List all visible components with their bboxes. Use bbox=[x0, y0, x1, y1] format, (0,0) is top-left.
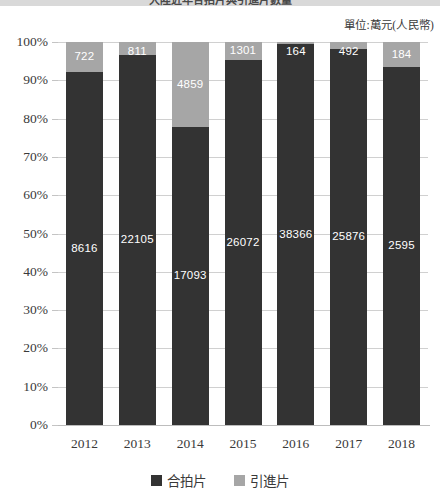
bar-group[interactable]: 170934859 bbox=[172, 42, 209, 425]
bar-value-label: 25876 bbox=[332, 231, 365, 243]
bar-group[interactable]: 25876492 bbox=[330, 42, 367, 425]
legend-swatch-icon bbox=[151, 475, 162, 486]
bar-segment-coproduction[interactable]: 8616 bbox=[66, 72, 103, 426]
bar-group[interactable]: 38366164 bbox=[277, 42, 314, 425]
y-tick-label: 80% bbox=[23, 111, 48, 127]
x-tick-label: 2013 bbox=[111, 436, 164, 452]
bar-value-label: 26072 bbox=[227, 237, 260, 249]
bar-segment-imported[interactable]: 1301 bbox=[225, 42, 262, 60]
x-axis-baseline bbox=[58, 425, 430, 426]
bar-value-label: 38366 bbox=[279, 229, 312, 241]
bar-value-label: 1301 bbox=[230, 45, 256, 57]
bar-segment-coproduction[interactable]: 2595 bbox=[383, 67, 420, 425]
y-tick-label: 40% bbox=[23, 264, 48, 280]
bar-segment-imported[interactable]: 811 bbox=[119, 42, 156, 55]
bar-segment-coproduction[interactable]: 17093 bbox=[172, 127, 209, 425]
bar-segment-coproduction[interactable]: 26072 bbox=[225, 60, 262, 425]
bar-value-label: 184 bbox=[392, 49, 412, 61]
y-tick-label: 10% bbox=[23, 379, 48, 395]
bar-segment-imported[interactable]: 164 bbox=[277, 42, 314, 44]
bar-segment-imported[interactable]: 722 bbox=[66, 42, 103, 71]
legend-label: 合拍片 bbox=[167, 470, 206, 490]
plot-area: 8616722221058111709348592607213013836616… bbox=[58, 42, 428, 425]
bar-group[interactable]: 22105811 bbox=[119, 42, 156, 425]
x-tick-label: 2014 bbox=[164, 436, 217, 452]
y-tick-label: 50% bbox=[23, 226, 48, 242]
y-tick-label: 90% bbox=[23, 72, 48, 88]
y-tick-label: 100% bbox=[17, 34, 49, 50]
y-tick-label: 20% bbox=[23, 340, 48, 356]
bar-group[interactable]: 260721301 bbox=[225, 42, 262, 425]
bar-value-label: 164 bbox=[286, 46, 306, 58]
stacked-bar-chart: 100%90%80%70%60%50%40%30%20%10%0% 861672… bbox=[0, 0, 440, 500]
bar-segment-coproduction[interactable]: 38366 bbox=[277, 44, 314, 425]
y-tick-label: 70% bbox=[23, 149, 48, 165]
bar-value-label: 17093 bbox=[174, 270, 207, 282]
bar-value-label: 8616 bbox=[71, 243, 97, 255]
x-tick-label: 2017 bbox=[322, 436, 375, 452]
bar-value-label: 4859 bbox=[177, 79, 203, 91]
bar-segment-coproduction[interactable]: 25876 bbox=[330, 49, 367, 425]
bar-segment-coproduction[interactable]: 22105 bbox=[119, 55, 156, 425]
bar-group[interactable]: 8616722 bbox=[66, 42, 103, 425]
bar-value-label: 722 bbox=[75, 51, 95, 63]
bar-segment-imported[interactable]: 492 bbox=[330, 42, 367, 49]
x-tick-label: 2018 bbox=[375, 436, 428, 452]
x-tick-label: 2016 bbox=[269, 436, 322, 452]
bar-segment-imported[interactable]: 184 bbox=[383, 42, 420, 67]
bar-value-label: 492 bbox=[339, 46, 359, 58]
legend-label: 引進片 bbox=[250, 470, 289, 490]
y-tick-label: 30% bbox=[23, 302, 48, 318]
x-tick-label: 2012 bbox=[58, 436, 111, 452]
y-tick-label: 0% bbox=[30, 417, 48, 433]
bar-segment-imported[interactable]: 4859 bbox=[172, 42, 209, 127]
y-tick-label: 60% bbox=[23, 187, 48, 203]
x-axis-labels: 2012201320142015201620172018 bbox=[58, 436, 428, 458]
chart-legend: 合拍片引進片 bbox=[0, 470, 440, 490]
bar-value-label: 811 bbox=[128, 46, 147, 58]
legend-item-imported[interactable]: 引進片 bbox=[234, 470, 289, 490]
bar-value-label: 2595 bbox=[388, 240, 414, 252]
legend-item-coproduction[interactable]: 合拍片 bbox=[151, 470, 206, 490]
legend-swatch-icon bbox=[234, 475, 245, 486]
bar-group[interactable]: 2595184 bbox=[383, 42, 420, 425]
x-tick-label: 2015 bbox=[217, 436, 270, 452]
y-axis-labels: 100%90%80%70%60%50%40%30%20%10%0% bbox=[0, 42, 52, 425]
bar-value-label: 22105 bbox=[121, 234, 154, 246]
